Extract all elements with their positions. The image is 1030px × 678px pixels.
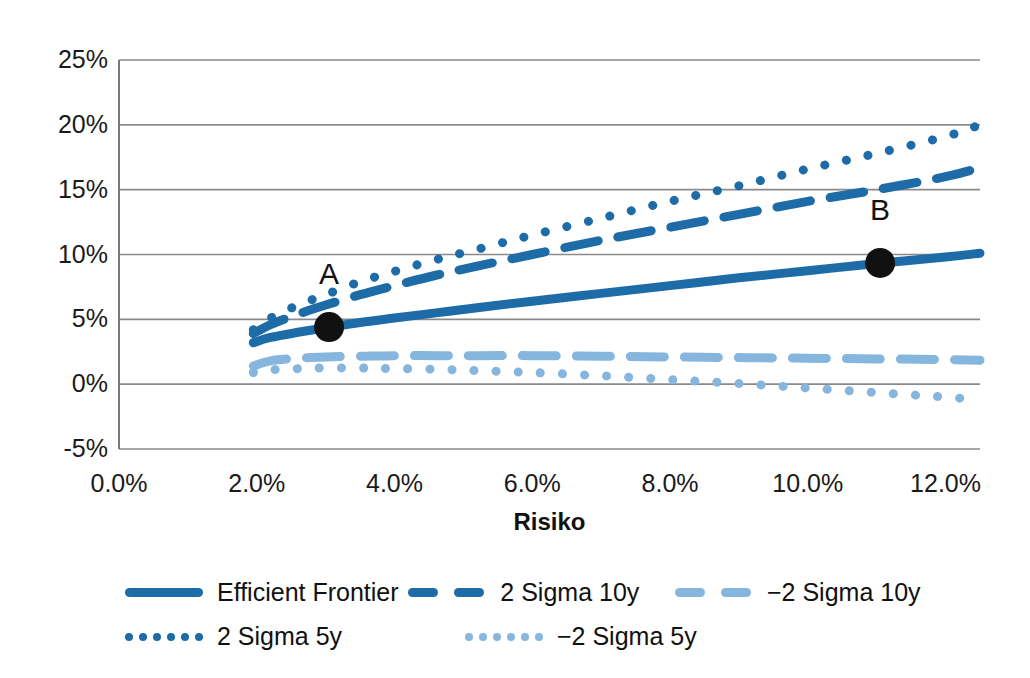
legend-item[interactable]: 2 Sigma 5y bbox=[125, 614, 465, 658]
x-tick-label: 12.0% bbox=[886, 466, 1006, 500]
legend-label: 2 Sigma 10y bbox=[500, 580, 639, 605]
x-tick: 12.0% bbox=[886, 466, 1006, 500]
legend-swatch-icon bbox=[408, 581, 486, 603]
legend-row: 2 Sigma 5y−2 Sigma 5y bbox=[125, 614, 925, 658]
y-tick-label: 10% bbox=[8, 242, 108, 267]
legend-item[interactable]: −2 Sigma 5y bbox=[465, 614, 785, 658]
x-tick: 6.0% bbox=[472, 466, 592, 500]
x-tick-label: 2.0% bbox=[197, 466, 317, 500]
legend-swatch-icon bbox=[125, 625, 203, 647]
x-tick: 10.0% bbox=[748, 466, 868, 500]
x-tick: 4.0% bbox=[335, 466, 455, 500]
legend-label: 2 Sigma 5y bbox=[217, 624, 342, 649]
chart-legend: Efficient Frontier2 Sigma 10y−2 Sigma 10… bbox=[125, 570, 925, 658]
y-tick-label: 15% bbox=[8, 177, 108, 202]
y-tick-label: -5% bbox=[8, 436, 108, 461]
legend-row: Efficient Frontier2 Sigma 10y−2 Sigma 10… bbox=[125, 570, 925, 614]
legend-item[interactable]: −2 Sigma 10y bbox=[675, 570, 925, 614]
y-tick-label: 25% bbox=[8, 47, 108, 72]
annotation-point bbox=[865, 248, 895, 278]
efficient-frontier-chart: -5%0%5%10%15%20%25% 0.0%2.0%4.0%6.0%8.0%… bbox=[0, 0, 1030, 678]
x-tick-label: 4.0% bbox=[335, 466, 455, 500]
annotation-point bbox=[314, 312, 344, 342]
series-line bbox=[253, 125, 980, 330]
legend-swatch-icon bbox=[465, 625, 543, 647]
legend-label: Efficient Frontier bbox=[217, 580, 399, 605]
x-axis-title: Risiko bbox=[119, 508, 980, 536]
x-tick-label: 0.0% bbox=[59, 466, 179, 500]
legend-item[interactable]: 2 Sigma 10y bbox=[408, 570, 675, 614]
y-tick-label: 0% bbox=[8, 371, 108, 396]
x-tick-label: 6.0% bbox=[472, 466, 592, 500]
y-tick-label: 5% bbox=[8, 306, 108, 331]
legend-swatch-icon bbox=[675, 581, 753, 603]
x-tick-label: 8.0% bbox=[610, 466, 730, 500]
legend-label: −2 Sigma 5y bbox=[557, 624, 697, 649]
x-tick: 0.0% bbox=[59, 466, 179, 500]
annotation-label: A bbox=[319, 259, 339, 289]
x-tick: 2.0% bbox=[197, 466, 317, 500]
legend-label: −2 Sigma 10y bbox=[767, 580, 921, 605]
y-tick-label: 20% bbox=[8, 112, 108, 137]
x-tick: 8.0% bbox=[610, 466, 730, 500]
legend-item[interactable]: Efficient Frontier bbox=[125, 570, 408, 614]
legend-swatch-icon bbox=[125, 581, 203, 603]
x-tick-label: 10.0% bbox=[748, 466, 868, 500]
annotation-label: B bbox=[870, 195, 890, 225]
